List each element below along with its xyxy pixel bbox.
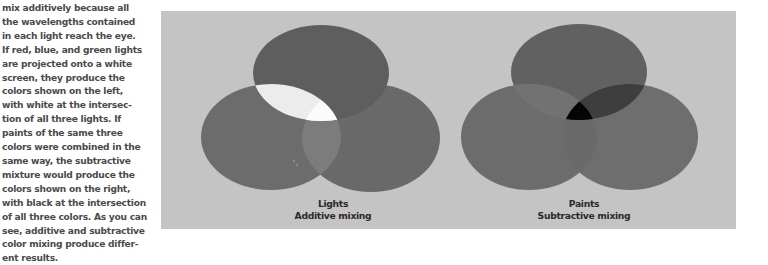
lights-caption-title: Lights [243, 198, 423, 210]
text-line: screen, they produce the [2, 72, 152, 86]
text-line: ent results. [2, 252, 152, 265]
text-line: color mixing produce differ- [2, 238, 152, 252]
text-line: tion of all three lights. If [2, 113, 152, 127]
text-line: with white at the intersec- [2, 99, 152, 113]
body-text-paragraph: mix additively because all the wavelengt… [2, 2, 152, 265]
text-line: colors shown on the right, [2, 183, 152, 197]
text-line: with black at the intersection [2, 197, 152, 211]
lights-caption-subtitle: Additive mixing [243, 210, 423, 222]
dust-speck [296, 164, 298, 166]
additive-mixing-diagram [201, 25, 440, 192]
text-line: colors shown on the left, [2, 85, 152, 99]
paints-caption-title: Paints [494, 198, 674, 210]
text-line: colors were combined in the [2, 141, 152, 155]
lights-caption: Lights Additive mixing [243, 198, 423, 222]
dust-speck [293, 160, 295, 162]
paints-caption: Paints Subtractive mixing [494, 198, 674, 222]
text-line: the wavelengths contained [2, 16, 152, 30]
text-line: paints of the same three [2, 127, 152, 141]
paints-caption-subtitle: Subtractive mixing [494, 210, 674, 222]
text-line: mix additively because all [2, 2, 152, 16]
subtractive-mixing-diagram [461, 24, 698, 190]
text-line: If red, blue, and green lights [2, 44, 152, 58]
color-mixing-diagram [161, 11, 736, 229]
text-line: see, additive and subtractive [2, 225, 152, 239]
text-line: in each light reach the eye. [2, 30, 152, 44]
text-line: same way, the subtractive [2, 155, 152, 169]
figure-panel: Lights Additive mixing Paints Subtractiv… [161, 11, 736, 229]
text-line: are projected onto a white [2, 58, 152, 72]
text-line: mixture would produce the [2, 169, 152, 183]
text-line: of all three colors. As you can [2, 211, 152, 225]
